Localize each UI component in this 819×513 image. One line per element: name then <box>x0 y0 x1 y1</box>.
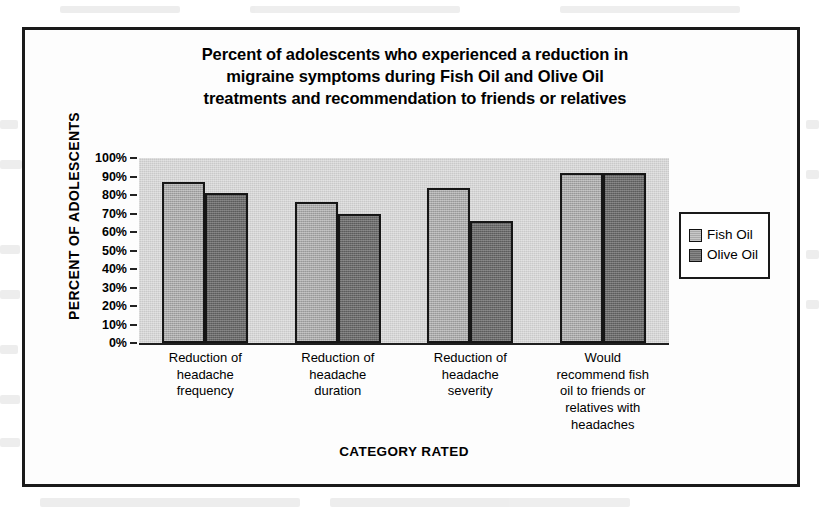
category-label-line: Would <box>541 350 666 367</box>
tick-dash-icon <box>130 250 137 252</box>
category-label-line: Reduction of <box>276 350 401 367</box>
y-tick-label: 10% <box>102 318 127 332</box>
y-tick-90: 90% <box>102 170 137 184</box>
y-tick-80: 80% <box>102 188 137 202</box>
tick-dash-icon <box>130 176 137 178</box>
tick-dash-icon <box>130 194 137 196</box>
tick-dash-icon <box>130 305 137 307</box>
category-label-line: relatives with <box>541 400 666 417</box>
category-label-line: headaches <box>541 417 666 434</box>
legend-swatch-icon-olive-oil <box>689 249 702 262</box>
category-label-line: recommend fish <box>541 367 666 384</box>
y-tick-10: 10% <box>102 318 137 332</box>
y-tick-100: 100% <box>95 151 137 165</box>
bar-olive-oil-2[interactable] <box>470 221 513 343</box>
category-label-line: headache <box>143 367 268 384</box>
y-tick-label: 0% <box>109 336 127 350</box>
category-label-3: Would recommend fish oil to friends or r… <box>537 350 670 433</box>
y-tick-20: 20% <box>102 299 137 313</box>
category-label-line: frequency <box>143 383 268 400</box>
category-label-line: Reduction of <box>408 350 533 367</box>
legend-item-fish-oil[interactable]: Fish Oil <box>689 228 758 243</box>
y-tick-label: 70% <box>102 207 127 221</box>
y-tick-label: 90% <box>102 170 127 184</box>
category-label-line: headache <box>408 367 533 384</box>
y-tick-60: 60% <box>102 225 137 239</box>
y-tick-70: 70% <box>102 207 137 221</box>
y-tick-label: 20% <box>102 299 127 313</box>
x-axis-category-labels: Reduction of headache frequency Reductio… <box>139 350 669 433</box>
chart-title-line-1: Percent of adolescents who experienced a… <box>75 44 755 66</box>
y-axis-ticks: 100% 90% 80% 70% 60% 50% 40% 30% 20% 10%… <box>85 158 137 343</box>
tick-dash-icon <box>130 342 137 344</box>
legend-label-fish-oil: Fish Oil <box>707 228 753 243</box>
tick-dash-icon <box>130 268 137 270</box>
bar-group-0 <box>139 158 272 343</box>
tick-dash-icon <box>130 157 137 159</box>
bar-fish-oil-2[interactable] <box>427 188 470 343</box>
legend-item-olive-oil[interactable]: Olive Oil <box>689 248 758 263</box>
bar-fish-oil-3[interactable] <box>560 173 603 343</box>
y-tick-label: 100% <box>95 151 127 165</box>
bar-fish-oil-1[interactable] <box>295 202 338 343</box>
legend-label-olive-oil: Olive Oil <box>707 248 758 263</box>
category-label-line: headache <box>276 367 401 384</box>
y-tick-label: 80% <box>102 188 127 202</box>
category-label-2: Reduction of headache severity <box>404 350 537 433</box>
category-label-0: Reduction of headache frequency <box>139 350 272 433</box>
bar-group-3 <box>537 158 670 343</box>
category-label-line: Reduction of <box>143 350 268 367</box>
x-axis-title: CATEGORY RATED <box>139 444 669 459</box>
y-axis-title: PERCENT OF ADOLESCENTS <box>66 101 82 331</box>
y-tick-50: 50% <box>102 244 137 258</box>
category-label-line: duration <box>276 383 401 400</box>
tick-dash-icon <box>130 213 137 215</box>
y-tick-label: 60% <box>102 225 127 239</box>
chart-title-line-3: treatments and recommendation to friends… <box>75 88 755 110</box>
tick-dash-icon <box>130 324 137 326</box>
y-tick-40: 40% <box>102 262 137 276</box>
bar-group-2 <box>404 158 537 343</box>
chart-legend: Fish Oil Olive Oil <box>679 212 770 279</box>
plot-wrap: 100% 90% 80% 70% 60% 50% 40% 30% 20% 10%… <box>139 158 669 343</box>
category-label-line: oil to friends or <box>541 383 666 400</box>
bar-group-1 <box>272 158 405 343</box>
tick-dash-icon <box>130 231 137 233</box>
legend-swatch-icon-fish-oil <box>689 229 702 242</box>
y-tick-0: 0% <box>109 336 137 350</box>
bar-olive-oil-3[interactable] <box>603 173 646 343</box>
y-tick-label: 40% <box>102 262 127 276</box>
bar-groups <box>139 158 669 343</box>
category-label-1: Reduction of headache duration <box>272 350 405 433</box>
chart-title: Percent of adolescents who experienced a… <box>75 44 755 109</box>
category-label-line: severity <box>408 383 533 400</box>
chart-container: Percent of adolescents who experienced a… <box>22 27 800 487</box>
bar-olive-oil-1[interactable] <box>338 214 381 344</box>
chart-title-line-2: migraine symptoms during Fish Oil and Ol… <box>75 66 755 88</box>
y-tick-label: 50% <box>102 244 127 258</box>
y-tick-30: 30% <box>102 281 137 295</box>
tick-dash-icon <box>130 287 137 289</box>
bar-olive-oil-0[interactable] <box>205 193 248 343</box>
y-tick-label: 30% <box>102 281 127 295</box>
bar-fish-oil-0[interactable] <box>162 182 205 343</box>
